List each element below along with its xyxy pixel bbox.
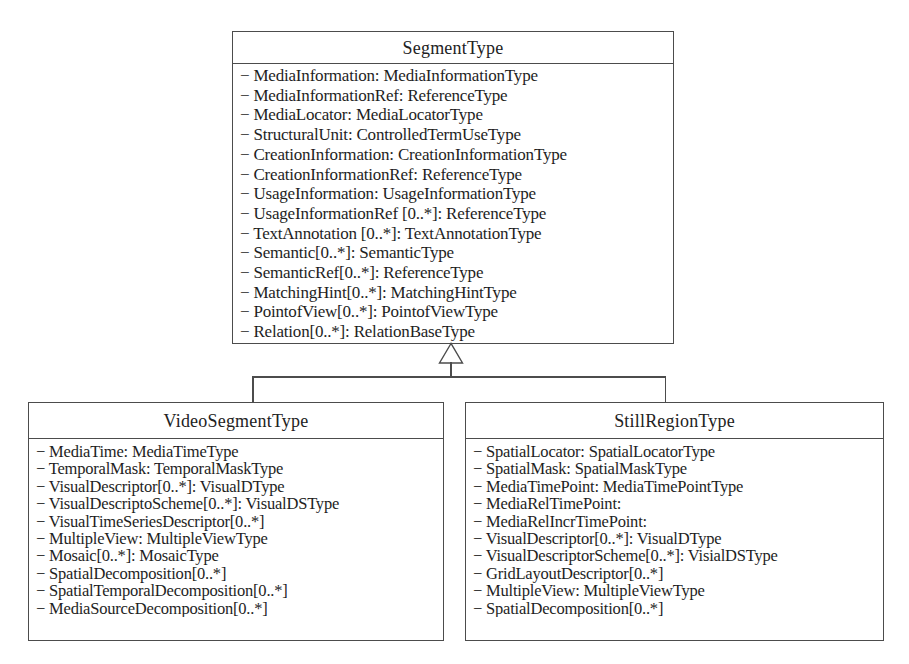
uml-attribute: − TextAnnotation [0..*]: TextAnnotationT… [240, 224, 670, 244]
generalization-horizontal-line [252, 376, 666, 378]
class-box-segmenttype: SegmentType − MediaInformation: MediaInf… [232, 31, 674, 344]
uml-attribute: − MultipleView: MultipleViewType [473, 582, 880, 599]
uml-class-diagram: SegmentType − MediaInformation: MediaInf… [0, 0, 909, 664]
uml-attribute: − PointofView[0..*]: PointofViewType [240, 302, 670, 322]
class-title: VideoSegmentType [29, 403, 443, 439]
uml-attribute: − SpatialDecomposition[0..*] [473, 600, 880, 617]
uml-attribute: − GridLayoutDescriptor[0..*] [473, 565, 880, 582]
uml-attribute: − MediaRelTimePoint: [473, 495, 880, 512]
generalization-stem-line [450, 362, 452, 377]
uml-attribute: − SpatialTemporalDecomposition[0..*] [36, 582, 440, 599]
class-title: StillRegionType [466, 403, 883, 439]
generalization-branch-right-line [665, 376, 667, 403]
uml-attribute: − MediaRelIncrTimePoint: [473, 513, 880, 530]
uml-attribute: − VisualDescriptor[0..*]: VisualDType [473, 530, 880, 547]
attribute-compartment: − SpatialLocator: SpatialLocatorType − S… [466, 439, 883, 617]
uml-attribute: − MultipleView: MultipleViewType [36, 530, 440, 547]
uml-attribute: − VisualDescriptor[0..*]: VisualDType [36, 478, 440, 495]
uml-attribute: − VisualDescriptoScheme[0..*]: VisualDST… [36, 495, 440, 512]
uml-attribute: − SpatialDecomposition[0..*] [36, 565, 440, 582]
generalization-branch-left-line [252, 376, 254, 403]
uml-attribute: − UsageInformation: UsageInformationType [240, 184, 670, 204]
uml-attribute: − MediaTime: MediaTimeType [36, 443, 440, 460]
uml-attribute: − MediaTimePoint: MediaTimePointType [473, 478, 880, 495]
uml-attribute: − CreationInformationRef: ReferenceType [240, 165, 670, 185]
uml-attribute: − MediaInformation: MediaInformationType [240, 66, 670, 86]
class-title: SegmentType [233, 32, 673, 64]
uml-attribute: − UsageInformationRef [0..*]: ReferenceT… [240, 204, 670, 224]
uml-attribute: − SpatialMask: SpatialMaskType [473, 460, 880, 477]
uml-attribute: − MediaLocator: MediaLocatorType [240, 105, 670, 125]
uml-attribute: − MatchingHint[0..*]: MatchingHintType [240, 283, 670, 303]
uml-attribute: − VisualDescriptorScheme[0..*]: VisialDS… [473, 547, 880, 564]
uml-attribute: − Semantic[0..*]: SemanticType [240, 243, 670, 263]
attribute-compartment: − MediaTime: MediaTimeType − TemporalMas… [29, 439, 443, 617]
uml-attribute: − Mosaic[0..*]: MosaicType [36, 547, 440, 564]
uml-attribute: − TemporalMask: TemporalMaskType [36, 460, 440, 477]
uml-attribute: − Relation[0..*]: RelationBaseType [240, 322, 670, 342]
uml-attribute: − SpatialLocator: SpatialLocatorType [473, 443, 880, 460]
uml-attribute: − MediaSourceDecomposition[0..*] [36, 600, 440, 617]
class-box-videosegmenttype: VideoSegmentType − MediaTime: MediaTimeT… [28, 402, 444, 641]
uml-attribute: − MediaInformationRef: ReferenceType [240, 86, 670, 106]
uml-attribute: − VisualTimeSeriesDescriptor[0..*] [36, 513, 440, 530]
class-box-stillregiontype: StillRegionType − SpatialLocator: Spatia… [465, 402, 884, 641]
attribute-compartment: − MediaInformation: MediaInformationType… [233, 64, 673, 342]
uml-attribute: − StructuralUnit: ControlledTermUseType [240, 125, 670, 145]
uml-attribute: − CreationInformation: CreationInformati… [240, 145, 670, 165]
uml-attribute: − SemanticRef[0..*]: ReferenceType [240, 263, 670, 283]
